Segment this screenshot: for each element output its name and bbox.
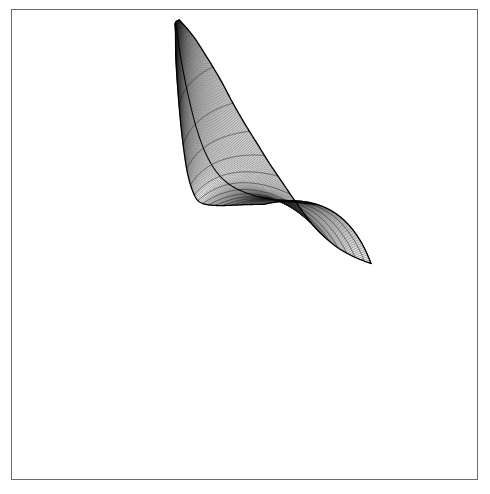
wireframe-surface-plot xyxy=(0,0,490,494)
figure-root: Black-and-white wireframe mesh of a smoo… xyxy=(0,0,490,494)
